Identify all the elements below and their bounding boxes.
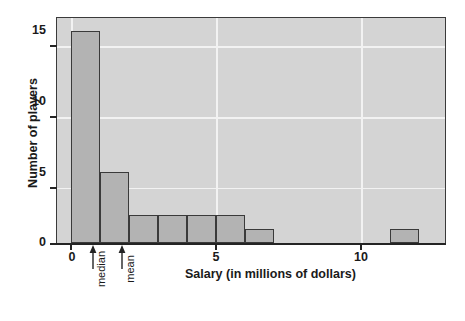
histogram-bar: [245, 229, 274, 243]
histogram-bar: [216, 215, 245, 243]
histogram-figure: 0 5 10 15 0 5 10 Number of players Salar…: [0, 0, 465, 321]
y-tick-mark-10: [50, 116, 57, 118]
y-tick-mark-5: [50, 187, 57, 189]
histogram-bar: [129, 215, 158, 243]
x-axis-title: Salary (in millions of dollars): [185, 267, 356, 281]
y-axis-title: Number of players: [26, 38, 40, 228]
median-label: median: [95, 247, 107, 291]
mean-label: mean: [124, 247, 136, 291]
gridline-horizontal-15: [57, 46, 445, 48]
gridline-vertical-10: [361, 18, 363, 243]
x-tick-label-5: 5: [213, 250, 220, 264]
y-tick-label-5: 5: [39, 166, 46, 179]
histogram-bar: [187, 215, 216, 243]
histogram-bar: [71, 31, 100, 243]
gridline-horizontal-10: [57, 117, 445, 119]
x-tick-label-0: 0: [69, 250, 76, 264]
gridline-vertical-5: [216, 18, 218, 243]
x-axis-line: [56, 243, 446, 245]
x-tick-label-10: 10: [354, 250, 368, 264]
y-tick-mark-0: [50, 243, 57, 245]
histogram-bar: [390, 229, 419, 243]
y-tick-label-0: 0: [39, 236, 46, 249]
plot-area: [56, 17, 446, 244]
y-tick-mark-15: [50, 45, 57, 47]
histogram-bar: [158, 215, 187, 243]
y-tick-label-15: 15: [32, 24, 46, 37]
histogram-bar: [100, 172, 129, 243]
